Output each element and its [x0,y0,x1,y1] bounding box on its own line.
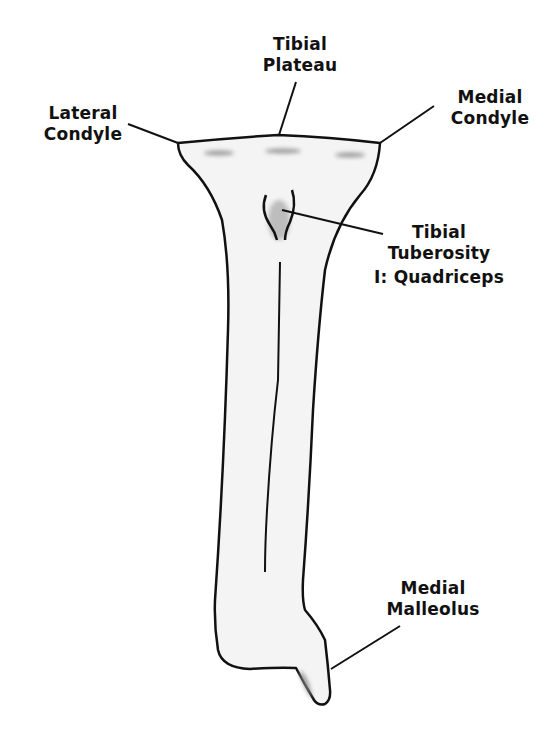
label-medial-malleolus-line2: Malleolus [368,599,498,620]
leader-medial-malleolus [331,626,400,669]
label-lateral-condyle-line1: Lateral [28,103,138,124]
label-tibial-tuberosity: Tibial Tuberosity I: Quadriceps [364,222,514,288]
label-tibial-plateau-line2: Plateau [240,55,360,76]
label-tibial-tuberosity-insertion: I: Quadriceps [364,267,514,288]
label-medial-condyle-line1: Medial [435,87,545,108]
label-tibial-plateau: Tibial Plateau [240,34,360,76]
label-medial-malleolus: Medial Malleolus [368,578,498,620]
label-medial-condyle-line2: Condyle [435,108,545,129]
label-medial-condyle: Medial Condyle [435,87,545,129]
leader-medial-condyle [380,106,434,143]
label-tibial-tuberosity-line2: Tuberosity [364,243,514,264]
label-lateral-condyle-line2: Condyle [28,124,138,145]
leader-tibial-plateau [279,82,296,135]
label-tibial-tuberosity-line1: Tibial [364,222,514,243]
label-medial-malleolus-line1: Medial [368,578,498,599]
label-lateral-condyle: Lateral Condyle [28,103,138,145]
label-tibial-plateau-line1: Tibial [240,34,360,55]
